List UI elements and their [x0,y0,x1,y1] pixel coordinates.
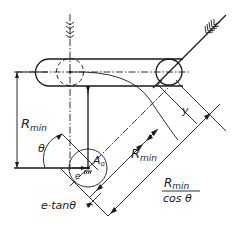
fraction-numerator-subscript: min [172,181,189,191]
svg-text:Rmin: Rmin [21,116,47,133]
e-tan-theta-label: e·tanθ [41,199,76,212]
r-min-over-cos-theta: Rmin cos θ [162,176,200,205]
r-min-diagonal-label: R [131,146,140,161]
follower-stem [86,86,90,168]
r-min-label: R [21,116,30,131]
vertical-axis [66,14,74,170]
y-label: y [181,104,189,117]
e-offset: e [72,166,87,181]
svg-text:Rmin: Rmin [131,146,157,163]
fraction-denominator: cos θ [163,192,192,205]
slotted-link [16,59,190,86]
roller-follower-diagram: Rmin θ Ao e [0,0,236,238]
theta-angle: θ [38,134,62,168]
r-min-subscript: min [30,123,47,133]
force-arrow [153,15,226,88]
fraction-numerator: R [164,176,172,190]
r-min-diagonal-subscript: min [140,153,157,163]
a0-subscript: o [101,160,105,168]
diagonal-guides [60,86,226,216]
theta-label: θ [38,142,45,155]
svg-text:Rmin: Rmin [164,176,190,191]
fixed-pivot-icon [84,171,92,174]
